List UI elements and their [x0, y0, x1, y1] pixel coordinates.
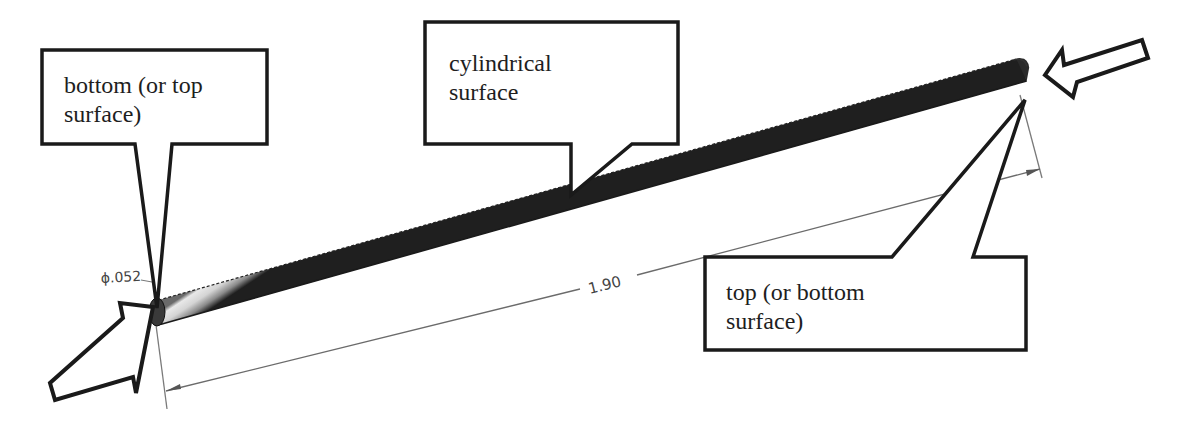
- callout-cylindrical-surface-label: cylindrical surface: [449, 49, 552, 107]
- length-label: 1.90: [586, 272, 623, 298]
- diameter-label: ϕ.052: [100, 268, 141, 286]
- left-load-arrow-icon: [50, 303, 153, 400]
- callout-bottom-surface-label: bottom (or top surface): [64, 71, 203, 129]
- callout-top-surface-label: top (or bottom surface): [726, 278, 865, 336]
- rod-diagram: 1.90 ϕ.052: [0, 0, 1185, 421]
- right-load-arrow-icon: [1045, 40, 1148, 97]
- diameter-dimension: ϕ.052: [100, 268, 152, 286]
